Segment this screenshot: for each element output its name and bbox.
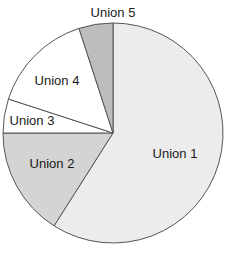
slice-label-union-4: Union 4: [35, 73, 80, 88]
slice-label-union-5: Union 5: [91, 5, 136, 20]
pie-slices: [3, 23, 223, 243]
slice-label-union-1: Union 1: [153, 146, 198, 161]
pie-chart: Union 1Union 2Union 3Union 4Union 5: [0, 0, 225, 254]
slice-label-union-3: Union 3: [10, 113, 55, 128]
slice-label-union-2: Union 2: [30, 156, 75, 171]
